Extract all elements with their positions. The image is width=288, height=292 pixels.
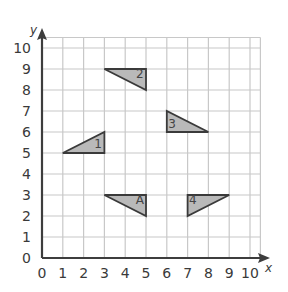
y-tick-label: 0 [22, 250, 31, 266]
y-tick-label: 7 [22, 103, 31, 119]
y-tick-label: 3 [22, 187, 31, 203]
x-tick-label: 5 [142, 265, 151, 281]
y-tick-label: 2 [22, 208, 31, 224]
x-tick-label: 9 [225, 265, 234, 281]
coordinate-grid: 123A4 x y 012345678910 012345678910 [0, 0, 288, 292]
y-tick-label: 8 [22, 82, 31, 98]
x-tick-label: 6 [162, 265, 171, 281]
x-tick-label: 10 [241, 265, 259, 281]
y-axis-label: y [29, 23, 38, 37]
triangle-label: 1 [94, 137, 102, 151]
x-tick-label: 8 [204, 265, 213, 281]
y-tick-label: 4 [22, 166, 31, 182]
x-tick-label: 4 [121, 265, 130, 281]
y-tick-label: 10 [13, 40, 31, 56]
y-tick-label: 9 [22, 61, 31, 77]
x-tick-label: 7 [183, 265, 192, 281]
y-tick-label: 1 [22, 229, 31, 245]
triangle-label: A [136, 193, 145, 207]
triangle-label: 4 [189, 193, 197, 207]
x-tick-label: 2 [79, 265, 88, 281]
x-tick-label: 3 [100, 265, 109, 281]
triangle-label: 3 [168, 117, 176, 131]
y-tick-label: 5 [22, 145, 31, 161]
y-tick-labels: 012345678910 [13, 40, 31, 266]
y-tick-label: 6 [22, 124, 31, 140]
x-tick-labels: 012345678910 [38, 265, 259, 281]
x-axis-label: x [264, 261, 273, 275]
x-tick-label: 1 [58, 265, 67, 281]
triangle-label: 2 [136, 67, 144, 81]
x-tick-label: 0 [38, 265, 47, 281]
